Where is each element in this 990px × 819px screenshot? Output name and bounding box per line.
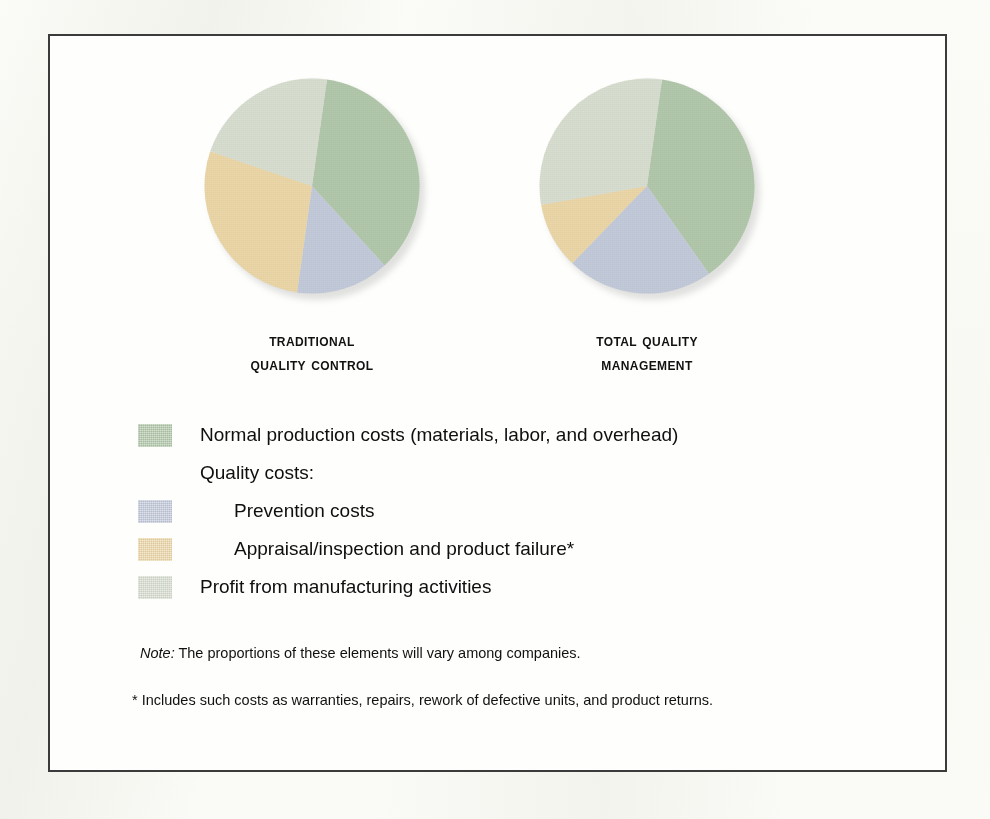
legend-label: Appraisal/inspection and product failure…: [178, 538, 574, 560]
legend-label: Prevention costs: [178, 500, 374, 522]
pie-svg-left: [204, 78, 420, 294]
pie-slice: [539, 79, 661, 205]
note-text: The proportions of these elements will v…: [175, 645, 581, 661]
legend-label: Quality costs:: [178, 462, 314, 484]
pie-caption-tqm: Total Quality Management: [497, 328, 797, 376]
pie-chart-group: [50, 36, 945, 336]
legend-row: Profit from manufacturing activities: [50, 568, 945, 606]
legend-swatch-slot: [138, 462, 178, 485]
caption-line-2: Quality Control: [162, 352, 462, 376]
figure-note: Note: The proportions of these elements …: [140, 645, 581, 661]
caption-line-2: Management: [497, 352, 797, 376]
pie-chart-total-quality-management: [539, 78, 755, 294]
legend-row: Prevention costs: [50, 492, 945, 530]
legend-swatch-slot: [138, 538, 178, 561]
legend-row: Normal production costs (materials, labo…: [50, 416, 945, 454]
legend-swatch-placeholder: [138, 462, 172, 485]
pie-caption-traditional: Traditional Quality Control: [162, 328, 462, 376]
figure-footnote: * Includes such costs as warranties, rep…: [132, 692, 713, 708]
legend-color-swatch: [138, 424, 172, 447]
caption-line-1: Total Quality: [497, 328, 797, 352]
legend-label: Profit from manufacturing activities: [178, 576, 491, 598]
legend: Normal production costs (materials, labo…: [50, 416, 945, 606]
pie-chart-traditional-quality-control: [204, 78, 420, 294]
caption-line-1: Traditional: [162, 328, 462, 352]
pie-svg-right: [539, 78, 755, 294]
legend-row: Quality costs:: [50, 454, 945, 492]
legend-swatch-slot: [138, 576, 178, 599]
legend-swatch-slot: [138, 500, 178, 523]
figure-frame: Traditional Quality Control Total Qualit…: [48, 34, 947, 772]
legend-swatch-slot: [138, 424, 178, 447]
note-label: Note:: [140, 645, 175, 661]
legend-row: Appraisal/inspection and product failure…: [50, 530, 945, 568]
legend-color-swatch: [138, 576, 172, 599]
legend-color-swatch: [138, 538, 172, 561]
legend-label: Normal production costs (materials, labo…: [178, 424, 678, 446]
legend-color-swatch: [138, 500, 172, 523]
